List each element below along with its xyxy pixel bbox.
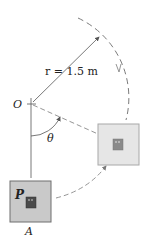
theta-angle-arc: [31, 117, 60, 136]
point-label: P: [14, 188, 25, 202]
arc-arrow-icon: [116, 64, 121, 72]
position-label: A: [24, 225, 33, 238]
radius-label: r = 1.5 m: [45, 65, 98, 78]
rotated-reference-line: [33, 105, 98, 134]
inner-dot-a1: [28, 199, 30, 201]
inner-square-a: [26, 197, 36, 208]
inner-dot-a2: [31, 199, 33, 201]
inner-dot-b2: [118, 141, 120, 143]
motion-path-arrow: [56, 166, 106, 198]
angle-label: θ: [47, 132, 54, 145]
inner-dot-b1: [115, 141, 117, 143]
inner-square-b: [113, 139, 123, 150]
rotation-diagram: r = 1.5 m O θ P A: [0, 0, 149, 248]
pivot-label: O: [13, 98, 22, 111]
